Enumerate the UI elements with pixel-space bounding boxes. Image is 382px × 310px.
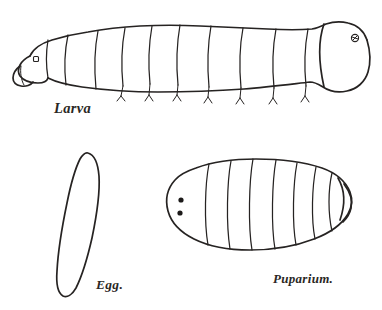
larva-ventral-welt (204, 87, 212, 103)
figure-label-puparium: Puparium. (273, 271, 333, 287)
figure-label-larva: Larva (54, 100, 91, 117)
larva-segment-line (305, 29, 308, 86)
figure-puparium (167, 159, 352, 250)
puparium-outline (167, 159, 352, 250)
figure-label-egg: Egg. (96, 277, 123, 293)
plate-artwork (0, 0, 382, 310)
puparium-posterior-tip-inner (338, 178, 344, 220)
larva-terminal-segment-line (320, 24, 324, 87)
puparium-segment-line (312, 167, 316, 239)
egg-outline (57, 153, 99, 297)
larva-anterior-spiracle-icon (34, 57, 39, 62)
larva-ventral-welt (236, 88, 244, 104)
larva-dorsal-outline (30, 22, 367, 56)
larva-ventral-welt (173, 85, 181, 101)
figure-larva (13, 22, 370, 104)
puparium-segment-line (249, 159, 253, 250)
larva-segment-line (208, 26, 211, 87)
larva-ventral-welt (301, 86, 309, 102)
larva-ventral-welt (269, 88, 277, 104)
puparium-segment-line (227, 161, 231, 249)
puparium-segment-line (205, 164, 209, 245)
puparium-segment-line (272, 160, 276, 249)
larva-segment-line (149, 26, 152, 84)
larva-posterior-spiracle-mark (352, 36, 358, 40)
larva-segment-line (240, 28, 243, 88)
puparium-spiracle-dot-icon (178, 197, 183, 202)
larva-segment-line (65, 35, 68, 85)
larva-segment-line (273, 29, 276, 88)
larva-head-segment-line (47, 40, 49, 78)
larva-segment-line (95, 31, 98, 89)
larva-segment-line (122, 28, 125, 86)
figure-egg (57, 153, 99, 297)
larva-ventral-welt (117, 86, 125, 101)
puparium-spiracle-dot-icon (177, 210, 182, 215)
larva-mouth-hook-crease (21, 66, 24, 85)
puparium-segment-line (329, 173, 332, 231)
illustration-plate: Larva Egg. Puparium. (0, 0, 382, 310)
larva-segment-line (177, 25, 180, 85)
puparium-segment-line (293, 163, 297, 245)
